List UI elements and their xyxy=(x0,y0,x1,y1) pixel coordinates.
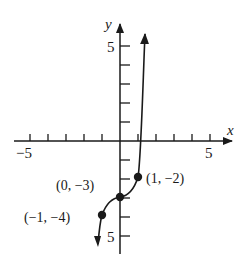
y-axis-label: y xyxy=(103,16,112,32)
y-max-tick-label: 5 xyxy=(107,39,115,55)
x-axis-label: x xyxy=(226,122,234,138)
point-label-0-neg3: (0, −3) xyxy=(56,178,95,194)
point-0-neg3 xyxy=(116,193,124,201)
x-max-tick-label: 5 xyxy=(205,145,213,161)
graph-canvas: x y −5 5 5 5 (−1, −4) (0, −3) (1, −2) xyxy=(0,0,239,257)
point-1-neg2 xyxy=(134,173,142,181)
point-label-1-neg2: (1, −2) xyxy=(146,171,185,187)
x-min-tick-label: −5 xyxy=(16,145,32,161)
y-min-tick-label: 5 xyxy=(107,229,115,245)
point-neg1-neg4 xyxy=(98,211,106,219)
point-label-neg1-neg4: (−1, −4) xyxy=(24,210,70,226)
curve-arrow-down xyxy=(94,236,101,247)
